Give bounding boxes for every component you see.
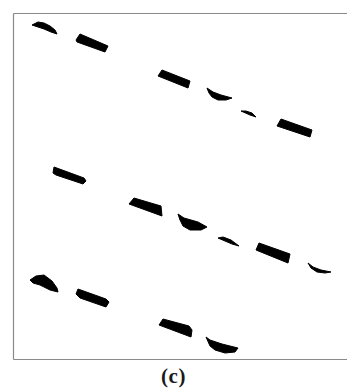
dash-segment-bar xyxy=(277,119,312,137)
dash-segment-dome xyxy=(206,337,238,353)
dash-segment-bar xyxy=(76,289,109,307)
dash-segment-bar xyxy=(158,70,190,88)
dashed-line-row-3 xyxy=(30,275,238,353)
dash-segment-bar xyxy=(76,34,108,52)
dashed-line-row-2 xyxy=(53,167,331,273)
dash-segment-dome xyxy=(308,263,331,273)
figure-panel xyxy=(0,0,347,391)
dash-segment-bar xyxy=(129,198,162,216)
dash-segment-dome xyxy=(207,88,232,100)
dash-segment-bar xyxy=(159,319,192,337)
figure-caption: (c) xyxy=(0,364,347,389)
dashed-line-row-1 xyxy=(32,22,312,137)
dash-segment-dome xyxy=(30,275,58,292)
dash-segment-sliver xyxy=(218,237,239,246)
dash-segment-bar xyxy=(53,167,86,184)
dash-segment-bar xyxy=(256,243,290,263)
dashed-lines-group xyxy=(30,22,331,353)
dash-segment-sliver xyxy=(241,111,256,117)
figure-frame xyxy=(14,14,347,360)
dash-segment-dome xyxy=(32,22,57,34)
dash-segment-dome xyxy=(178,214,207,230)
